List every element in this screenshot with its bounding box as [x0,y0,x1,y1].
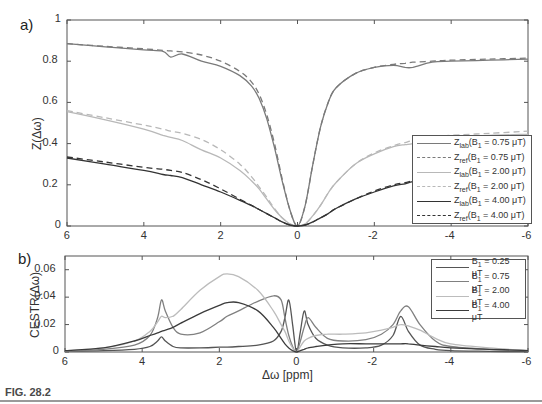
y-tick-label: 0 [55,218,61,230]
x-tick-label: 6 [64,229,70,241]
legend-label: Zref(B1 = 0.75 μT) [454,152,525,164]
x-tick-label: -2 [367,355,377,367]
legend-entry: Zref(B1 = 2.00 μT) [413,180,531,195]
legend-swatch [417,143,451,144]
y-tick-label: 0.06 [34,262,55,274]
legend-entry: B1 = 4.00 μT [432,304,525,319]
figure-caption: FIG. 28.2 [5,386,51,398]
legend-entry: Zref(B1 = 0.75 μT) [413,151,531,166]
legend-label: Zlab(B1 = 4.00 μT) [454,195,526,207]
panel-b-xlabel: Δω [ppm] [262,368,313,382]
x-tick-label: 4 [139,355,145,367]
panel-b-label: b) [18,250,31,267]
legend-swatch [417,186,451,187]
y-tick-label: 0.8 [42,53,57,65]
y-tick-label: 0.4 [42,136,57,148]
legend-swatch [417,172,451,173]
panel-a-legend: Zlab(B1 = 0.75 μT)Zref(B1 = 0.75 μT)Zlab… [412,135,532,224]
legend-entry: Zlab(B1 = 4.00 μT) [413,194,531,209]
legend-label: Zref(B1 = 4.00 μT) [454,210,525,222]
x-tick-label: 0 [293,355,299,367]
legend-label: Zlab(B1 = 0.75 μT) [454,137,526,149]
panel-b-legend: B1 = 0.25 μTB1 = 0.75 μTB1 = 2.00 μTB1 =… [431,259,526,319]
legend-swatch [417,157,451,158]
y-tick-label: 1 [55,12,61,24]
y-tick-label: 0 [53,344,59,356]
x-tick-label: 4 [141,229,147,241]
x-tick-label: -6 [522,229,532,241]
legend-swatch [436,267,469,268]
legend-label: Zref(B1 = 2.00 μT) [454,181,525,193]
caption-divider [0,400,542,402]
x-tick-label: 0 [294,229,300,241]
y-tick-label: 0.2 [42,177,57,189]
legend-swatch [417,201,451,202]
x-tick-label: 2 [216,355,222,367]
x-tick-label: -4 [444,355,454,367]
y-tick-label: 0.02 [34,317,55,329]
legend-label: B1 = 4.00 μT [472,300,521,322]
y-tick-label: 0.6 [42,94,57,106]
x-tick-label: -6 [522,355,532,367]
legend-swatch [436,281,469,282]
legend-label: Zlab(B1 = 2.00 μT) [454,166,526,178]
x-tick-label: 2 [217,229,223,241]
legend-swatch [417,215,451,216]
x-tick-label: -2 [368,229,378,241]
legend-entry: Zlab(B1 = 0.75 μT) [413,136,531,151]
y-tick-label: 0.04 [34,289,55,301]
legend-entry: Zlab(B1 = 2.00 μT) [413,165,531,180]
x-tick-label: -4 [445,229,455,241]
legend-entry: Zref(B1 = 4.00 μT) [413,209,531,224]
legend-swatch [436,310,469,311]
x-tick-label: 6 [62,355,68,367]
legend-swatch [436,296,469,297]
panel-a-label: a) [20,16,33,33]
